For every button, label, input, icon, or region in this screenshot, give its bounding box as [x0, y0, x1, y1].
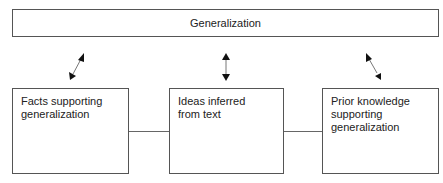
- double-arrow-left-icon: [69, 53, 84, 80]
- double-arrow-right-icon: [366, 53, 381, 80]
- double-arrow-center-icon: [222, 53, 230, 81]
- arrows-layer: [0, 0, 443, 183]
